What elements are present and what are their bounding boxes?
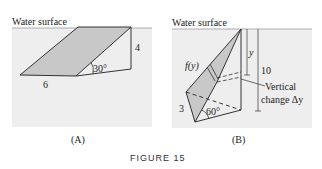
f-y-label: f(y) [185, 60, 200, 72]
panel-b: Water surface y 10 f(y) 3 60° Vertical c… [161, 0, 322, 150]
caption-a: (A) [71, 134, 85, 145]
y-label: y [248, 47, 254, 58]
length-label: 6 [43, 79, 48, 90]
water-surface-label: Water surface [12, 16, 68, 27]
panel-b-diagram: Water surface y 10 f(y) 3 60° Vertical c… [161, 0, 322, 150]
depth-10-label: 10 [261, 65, 271, 76]
angle-label: 60° [206, 106, 220, 117]
panel-a-diagram: 30° 4 6 Water surface [0, 0, 161, 150]
change-label: change Δy [261, 94, 303, 105]
caption-b: (B) [232, 134, 245, 145]
angle-label: 30° [93, 63, 107, 74]
height-label: 4 [135, 42, 140, 53]
figure-title: FIGURE 15 [130, 153, 186, 163]
panel-a: 30° 4 6 Water surface [0, 0, 161, 150]
side-3-label: 3 [179, 103, 184, 114]
vertical-label: Vertical [265, 81, 296, 92]
water-surface-label: Water surface [172, 17, 228, 28]
